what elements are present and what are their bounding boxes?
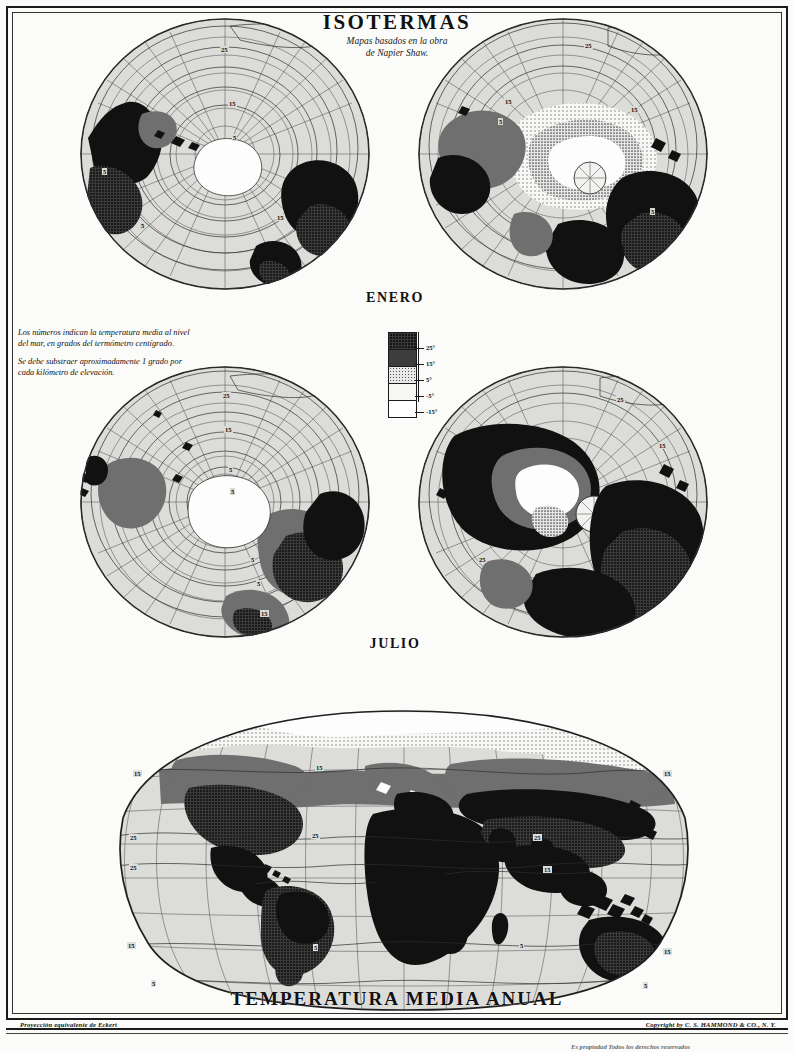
isotherm-label: 5 bbox=[650, 208, 655, 215]
map-julio-north-polar[interactable]: 25 15 25 bbox=[418, 366, 708, 638]
isotherm-label: 5 bbox=[102, 168, 107, 175]
isotherm-label: 5 bbox=[256, 580, 261, 587]
rights-reserved-notice: Es propiedad Todos los derechos reservad… bbox=[571, 1043, 690, 1050]
isotherm-label: 15 bbox=[630, 106, 639, 113]
map-temperatura-media-anual[interactable]: 15 15 15 25 25 25 25 15 15 5 5 15 5 5 bbox=[115, 708, 693, 1013]
isotherm-label: 15 bbox=[224, 426, 233, 433]
isotherm-label: 15 bbox=[276, 214, 285, 221]
isotherm-label: 25 bbox=[311, 832, 320, 839]
legend-label-minus-15: -15° bbox=[426, 408, 437, 415]
legend-label-25: 25° bbox=[426, 344, 435, 351]
isotherm-label: 15 bbox=[663, 948, 672, 955]
isotherm-label: 25 bbox=[129, 864, 138, 871]
isotherm-label: 5 bbox=[250, 556, 255, 563]
isotherm-label: 15 bbox=[315, 764, 324, 771]
explanatory-note: Los números indican la temperatura media… bbox=[18, 328, 198, 386]
legend-swatch-minus5 bbox=[389, 384, 416, 401]
isotherm-label: 5 bbox=[151, 980, 156, 987]
isotherm-label: 15 bbox=[133, 770, 142, 777]
legend[interactable]: 25° 15° 5° -5° -15° bbox=[388, 332, 417, 418]
isotherm-label: 25 bbox=[222, 392, 231, 399]
note-paragraph-2: Se debe substraer aproximadamente 1 grad… bbox=[18, 357, 198, 378]
footer-rule-thin bbox=[6, 1033, 788, 1034]
legend-tick-column: 25° 15° 5° -5° -15° bbox=[415, 332, 455, 418]
copyright-notice: Copyright by C. S. HAMMOND & CO., N. Y. bbox=[646, 1021, 776, 1028]
isotherm-label: 25 bbox=[533, 834, 542, 841]
legend-label-5: 5° bbox=[426, 376, 432, 383]
map-julio-south-polar[interactable]: 25 15 5 5 5 5 15 5 bbox=[80, 366, 370, 638]
isotherm-label: 5 bbox=[519, 942, 524, 949]
isotherm-label: 5 bbox=[104, 598, 109, 605]
isotherm-label: 25 bbox=[129, 834, 138, 841]
isotherm-label: 15 bbox=[504, 98, 513, 105]
projection-credit: Proyección equivalente de Eckert bbox=[20, 1021, 117, 1028]
isotherm-label: 15 bbox=[228, 100, 237, 107]
isotherm-label: 15 bbox=[658, 442, 667, 449]
legend-swatch-25 bbox=[389, 333, 416, 350]
legend-swatch-minus15 bbox=[389, 401, 416, 417]
isotherm-label: 15 bbox=[127, 942, 136, 949]
legend-swatch-stack bbox=[388, 332, 417, 418]
isotherm-label: 25 bbox=[616, 396, 625, 403]
isotherm-label: 5 bbox=[232, 134, 237, 141]
legend-swatch-15 bbox=[389, 350, 416, 367]
page-title: ISOTERMAS bbox=[0, 10, 794, 35]
subtitle-line-1: Mapas basados en la obra bbox=[0, 36, 794, 48]
isotherm-label: 25 bbox=[478, 556, 487, 563]
isotherm-label: 15 bbox=[260, 610, 269, 617]
isotherm-label: 5 bbox=[498, 118, 503, 125]
atlas-page: ISOTERMAS Mapas basados en la obra de Na… bbox=[0, 0, 794, 1052]
legend-swatch-5 bbox=[389, 367, 416, 384]
isotherm-label: 5 bbox=[313, 944, 318, 951]
isotherm-label: 15 bbox=[663, 770, 672, 777]
caption-enero: ENERO bbox=[330, 290, 460, 306]
caption-temperatura-media-anual: TEMPERATURA MEDIA ANUAL bbox=[0, 988, 794, 1010]
note-paragraph-1: Los números indican la temperatura media… bbox=[18, 328, 198, 349]
isotherm-label: 5 bbox=[230, 488, 235, 495]
subtitle-line-2: de Napier Shaw. bbox=[0, 48, 794, 60]
isotherm-label: 15 bbox=[543, 866, 552, 873]
caption-julio: JULIO bbox=[330, 636, 460, 652]
isotherm-label: 5 bbox=[140, 222, 145, 229]
legend-label-minus-5: -5° bbox=[426, 392, 434, 399]
legend-label-15: 15° bbox=[426, 360, 435, 367]
isotherm-label: 5 bbox=[228, 466, 233, 473]
footer-rule-thick bbox=[6, 1028, 788, 1030]
page-subtitle: Mapas basados en la obra de Napier Shaw. bbox=[0, 36, 794, 59]
